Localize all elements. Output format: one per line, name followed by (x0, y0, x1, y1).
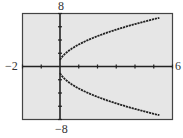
graph-plot (0, 0, 183, 138)
